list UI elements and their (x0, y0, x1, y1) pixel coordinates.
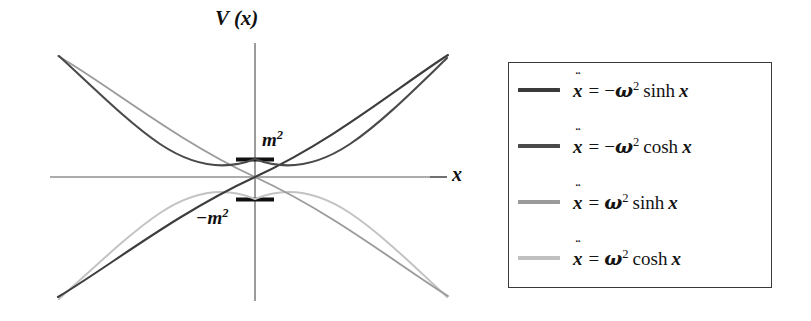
legend-swatch-1 (518, 144, 560, 148)
legend-label-1: x¨=−ω2coshx (573, 136, 692, 156)
potential-plot-figure: V (x) x m2 −m2 x¨=−ω2sinhx x¨=−ω2coshx x… (0, 0, 811, 321)
tick-label-positive: m2 (262, 129, 283, 149)
legend-item-3[interactable]: x¨=ω2coshx (509, 243, 771, 273)
legend-label-2: x¨=ω2sinhx (573, 192, 678, 212)
legend-label-3: x¨=ω2coshx (573, 248, 681, 268)
legend-label-0: x¨=−ω2sinhx (573, 80, 688, 100)
x-axis-label: x (452, 164, 462, 184)
x-axis-label-text: x (452, 163, 462, 185)
curve-omega2-cosh (59, 192, 447, 299)
legend-swatch-2 (518, 200, 560, 204)
legend: x¨=−ω2sinhx x¨=−ω2coshx x¨=ω2sinhx x¨=ω2… (508, 62, 772, 288)
legend-item-2[interactable]: x¨=ω2sinhx (509, 187, 771, 217)
legend-item-0[interactable]: x¨=−ω2sinhx (509, 75, 771, 105)
legend-item-1[interactable]: x¨=−ω2coshx (509, 131, 771, 161)
curve-neg-omega2-cosh (59, 56, 447, 165)
tick-label-negative: −m2 (196, 207, 229, 227)
legend-swatch-0 (518, 88, 560, 92)
legend-swatch-3 (518, 256, 560, 260)
y-axis-label-text: V (x) (215, 6, 258, 30)
y-axis-label: V (x) (215, 8, 258, 29)
